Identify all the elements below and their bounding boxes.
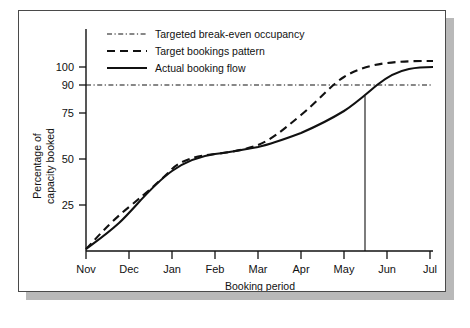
figure-frame: 25 50 75 90 100 Nov Dec Jan Feb [18, 10, 446, 292]
y-tick-label-50: 50 [62, 153, 74, 165]
x-tick-label-dec: Dec [119, 263, 139, 275]
y-tick-label-90: 90 [62, 79, 74, 91]
series-target-bookings-pattern [86, 61, 433, 249]
x-tick-label-jul: Jul [423, 263, 437, 275]
x-tick-label-apr: Apr [292, 263, 309, 275]
legend-label-target-bookings-pattern: Target bookings pattern [155, 45, 265, 57]
x-axis-title: Booking period [225, 280, 295, 291]
y-tick-label-100: 100 [56, 61, 74, 73]
legend-label-targeted-break-even-occupancy: Targeted break-even occupancy [155, 28, 305, 40]
axes [86, 29, 433, 251]
chart-legend: Targeted break-even occupancy Target boo… [107, 28, 305, 74]
x-tick-label-jan: Jan [163, 263, 181, 275]
series-actual-booking-flow [86, 67, 433, 249]
x-axis-ticks: Nov Dec Jan Feb Mar Apr May Jun Jul [76, 251, 437, 275]
x-tick-label-nov: Nov [76, 263, 96, 275]
y-axis-title: Percentage of capacity booked [31, 128, 56, 204]
x-tick-label-mar: Mar [249, 263, 268, 275]
x-tick-label-may: May [334, 263, 355, 275]
x-tick-label-jun: Jun [378, 263, 396, 275]
y-tick-label-75: 75 [62, 107, 74, 119]
y-tick-label-25: 25 [62, 199, 74, 211]
y-axis-ticks: 25 50 75 90 100 [56, 61, 86, 211]
x-tick-label-feb: Feb [206, 263, 225, 275]
legend-label-actual-booking-flow: Actual booking flow [155, 62, 246, 74]
booking-flow-line-chart: 25 50 75 90 100 Nov Dec Jan Feb [19, 11, 445, 291]
y-axis-title-line1: Percentage of [31, 133, 43, 198]
y-axis-title-line2: capacity booked [44, 128, 56, 204]
chart-page: 25 50 75 90 100 Nov Dec Jan Feb [0, 0, 470, 328]
